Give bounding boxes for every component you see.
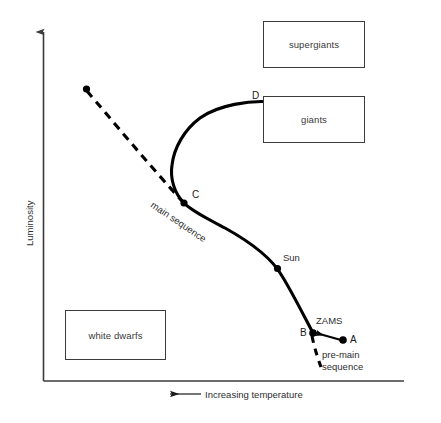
figure-caption	[0, 408, 441, 423]
hr-diagram-figure: supergiants giants white dwarfs Luminosi…	[0, 0, 441, 423]
region-box-giants: giants	[263, 96, 365, 143]
point-dot-B	[309, 329, 317, 337]
region-label-supergiants: supergiants	[289, 39, 339, 50]
point-label-A: A	[350, 334, 357, 345]
region-box-supergiants: supergiants	[263, 21, 365, 68]
point-dot-dashed-origin	[83, 85, 90, 92]
point-dot-sun	[274, 265, 281, 272]
pre-main-sequence-dashed-curve	[316, 333, 341, 340]
x-axis-title: Increasing temperature	[205, 389, 303, 400]
point-dot-A	[339, 336, 347, 344]
zams-label: ZAMS	[316, 315, 342, 326]
pre-main-sequence-label-line2: sequence	[322, 361, 363, 372]
sun-label: Sun	[283, 252, 300, 263]
point-label-C: C	[192, 189, 199, 200]
point-label-B: B	[300, 327, 307, 338]
pre-main-sequence-dashed-tail	[312, 336, 321, 367]
region-label-giants: giants	[301, 114, 327, 125]
region-label-white-dwarfs: white dwarfs	[89, 330, 143, 341]
y-axis-title: Luminosity	[24, 201, 35, 246]
region-box-white-dwarfs: white dwarfs	[65, 310, 166, 360]
pre-main-sequence-label-line1: pre-main	[322, 349, 360, 360]
upper-main-sequence-dashed-curve	[87, 91, 183, 202]
point-dot-C	[180, 199, 187, 206]
point-label-D: D	[252, 90, 259, 101]
